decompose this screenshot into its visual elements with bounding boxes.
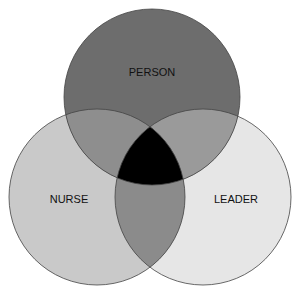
label-person: PERSON [129,66,176,78]
label-leader: LEADER [214,193,258,205]
venn-diagram: PERSON NURSE LEADER [0,0,294,291]
label-nurse: NURSE [50,193,89,205]
